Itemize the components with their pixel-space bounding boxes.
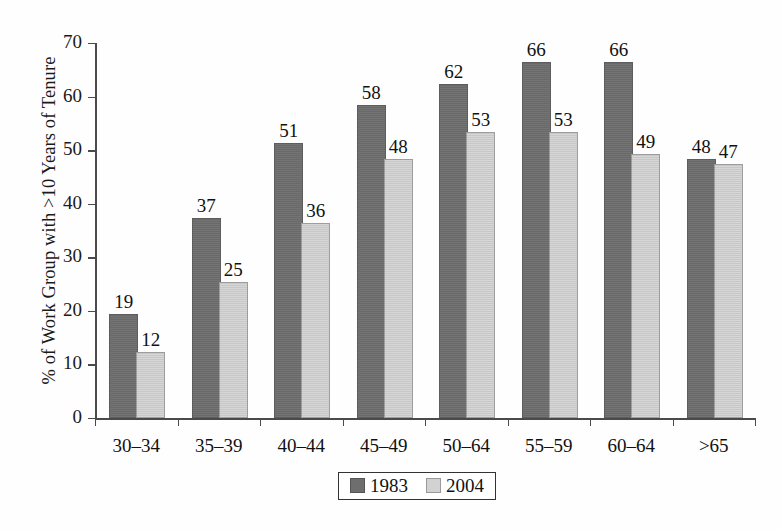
x-tick-2 bbox=[260, 418, 261, 426]
light-gray-swatch bbox=[426, 478, 441, 493]
bar-value-label: 53 bbox=[471, 109, 490, 131]
y-axis-title: % of Work Group with >10 Years of Tenure bbox=[39, 11, 60, 431]
x-tick-6 bbox=[590, 418, 591, 426]
bar-value-label: 36 bbox=[306, 200, 325, 222]
bar-1983-40–44: 51 bbox=[274, 143, 303, 418]
y-axis-line bbox=[95, 43, 97, 418]
bar-2004-45–49: 48 bbox=[384, 159, 413, 418]
bar-value-label: 53 bbox=[554, 109, 573, 131]
category-label-3: 45–49 bbox=[360, 435, 408, 457]
x-tick-0 bbox=[95, 418, 96, 426]
bar-value-label: 51 bbox=[279, 120, 298, 142]
x-tick-5 bbox=[508, 418, 509, 426]
chart-page: % of Work Group with >10 Years of Tenure… bbox=[0, 0, 782, 530]
y-tick-label-70: 70 bbox=[63, 31, 82, 53]
plot-area: 010203040506070 191237255136584862536653… bbox=[95, 43, 755, 418]
x-tick-4 bbox=[425, 418, 426, 426]
bar-value-label: 19 bbox=[114, 291, 133, 313]
bar-1983-55–59: 66 bbox=[522, 62, 551, 418]
x-tick-end bbox=[755, 418, 756, 426]
bar-value-label: 48 bbox=[389, 136, 408, 158]
y-tick-label-50: 50 bbox=[63, 138, 82, 160]
bar-2004->65: 47 bbox=[714, 164, 743, 418]
bar-1983-50–64: 62 bbox=[439, 84, 468, 418]
bar-value-label: 49 bbox=[636, 131, 655, 153]
bar-value-label: 66 bbox=[527, 39, 546, 61]
bar-2004-30–34: 12 bbox=[136, 352, 165, 418]
bar-2004-40–44: 36 bbox=[301, 223, 330, 418]
y-tick-20: 20 bbox=[88, 311, 95, 312]
category-label-0: 30–34 bbox=[113, 435, 161, 457]
bar-value-label: 37 bbox=[197, 195, 216, 217]
bar-1983-30–34: 19 bbox=[109, 314, 138, 418]
category-label-2: 40–44 bbox=[278, 435, 326, 457]
y-tick-label-40: 40 bbox=[63, 192, 82, 214]
bar-value-label: 58 bbox=[362, 82, 381, 104]
category-label-4: 50–64 bbox=[443, 435, 491, 457]
x-tick-3 bbox=[343, 418, 344, 426]
y-tick-60: 60 bbox=[88, 97, 95, 98]
bar-2004-60–64: 49 bbox=[631, 154, 660, 419]
bar-2004-50–64: 53 bbox=[466, 132, 495, 418]
y-tick-70: 70 bbox=[88, 43, 95, 44]
bar-2004-55–59: 53 bbox=[549, 132, 578, 418]
bar-value-label: 66 bbox=[609, 39, 628, 61]
bar-1983-60–64: 66 bbox=[604, 62, 633, 418]
category-label-7: >65 bbox=[699, 435, 729, 457]
bar-2004-35–39: 25 bbox=[219, 282, 248, 418]
y-tick-label-10: 10 bbox=[63, 352, 82, 374]
bar-value-label: 62 bbox=[444, 61, 463, 83]
bar-value-label: 48 bbox=[692, 136, 711, 158]
y-tick-40: 40 bbox=[88, 204, 95, 205]
bar-1983-35–39: 37 bbox=[192, 218, 221, 418]
category-label-1: 35–39 bbox=[195, 435, 243, 457]
bar-1983-45–49: 58 bbox=[357, 105, 386, 418]
x-tick-7 bbox=[673, 418, 674, 426]
x-tick-1 bbox=[178, 418, 179, 426]
legend-entry-2004: 2004 bbox=[426, 476, 484, 495]
bar-value-label: 47 bbox=[719, 141, 738, 163]
category-label-6: 60–64 bbox=[608, 435, 656, 457]
category-label-5: 55–59 bbox=[525, 435, 573, 457]
y-tick-10: 10 bbox=[88, 364, 95, 365]
bar-1983->65: 48 bbox=[687, 159, 716, 418]
bar-value-label: 12 bbox=[141, 329, 160, 351]
y-tick-30: 30 bbox=[88, 257, 95, 258]
legend-entry-1983: 1983 bbox=[350, 476, 408, 495]
y-tick-label-30: 30 bbox=[63, 245, 82, 267]
legend-label-2004: 2004 bbox=[446, 476, 484, 495]
y-tick-label-60: 60 bbox=[63, 85, 82, 107]
dark-gray-swatch bbox=[350, 478, 365, 493]
y-tick-label-20: 20 bbox=[63, 299, 82, 321]
y-tick-label-0: 0 bbox=[73, 406, 83, 428]
y-tick-0: 0 bbox=[88, 418, 95, 419]
y-tick-50: 50 bbox=[88, 150, 95, 151]
chart-legend: 19832004 bbox=[338, 472, 496, 500]
legend-label-1983: 1983 bbox=[370, 476, 408, 495]
bar-value-label: 25 bbox=[224, 259, 243, 281]
